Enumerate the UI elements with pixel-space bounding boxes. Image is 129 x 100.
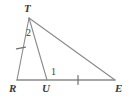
geometry-figure: T R U E 2 1 [0, 0, 129, 100]
geometry-canvas [0, 0, 129, 100]
angle-label-2: 2 [26, 28, 31, 38]
angle-label-1: 1 [51, 67, 56, 77]
tick-mark-TR-icon [17, 47, 26, 49]
segment-TU [29, 18, 47, 80]
vertex-label-R: R [9, 83, 16, 94]
vertex-label-U: U [42, 83, 50, 94]
vertex-label-T: T [24, 3, 31, 14]
vertex-label-E: E [115, 83, 122, 94]
segment-TE [29, 18, 115, 80]
